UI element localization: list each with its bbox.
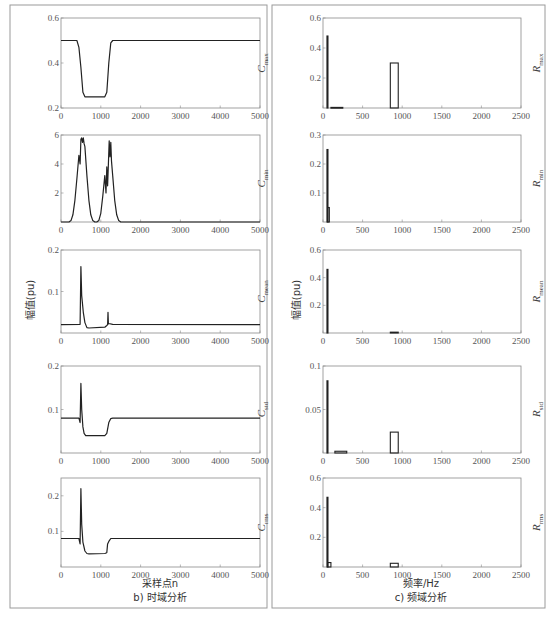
- x-tick-label: 2500: [512, 225, 531, 235]
- series-label-sub: rms: [262, 513, 270, 524]
- series-label: Rstd: [530, 402, 545, 418]
- x-tick-label: 5000: [251, 456, 270, 466]
- x-tick-label: 1000: [92, 336, 111, 346]
- x-tick-label: 2500: [512, 336, 531, 346]
- x-tick-label: 2000: [472, 570, 491, 580]
- x-tick-label: 2000: [132, 336, 151, 346]
- x-tick-label: 1000: [393, 111, 412, 121]
- y-tick-label: 4: [55, 159, 60, 169]
- axes-box: [323, 250, 521, 333]
- y-tick-label: 0.4: [310, 503, 322, 513]
- x-tick-label: 2000: [132, 225, 151, 235]
- series-label-sub: max: [537, 53, 545, 66]
- subplot-c-min: 010002000300040005000246Cmin: [55, 130, 271, 235]
- y-tick-label: 0.3: [310, 130, 322, 140]
- bar: [390, 332, 398, 333]
- x-tick-label: 2000: [472, 225, 491, 235]
- x-tick-label: 0: [321, 336, 326, 346]
- x-tick-label: 500: [356, 111, 370, 121]
- x-tick-label: 2000: [472, 456, 491, 466]
- y-tick-label: 0.2: [48, 491, 59, 501]
- x-tick-label: 5000: [251, 111, 270, 121]
- series-label: Rmean: [530, 280, 545, 303]
- y-tick-label: 2: [55, 188, 60, 198]
- x-tick-label: 500: [356, 336, 370, 346]
- bar: [390, 63, 398, 108]
- y-tick-label: 0.6: [310, 473, 322, 483]
- axes-box: [61, 135, 260, 222]
- x-tick-label: 2500: [512, 456, 531, 466]
- x-tick-label: 1000: [393, 225, 412, 235]
- subplot-c-rms: 0100020003000400050000.10.2Crms: [48, 478, 270, 580]
- x-tick-label: 500: [356, 225, 370, 235]
- x-tick-label: 0: [321, 456, 326, 466]
- y-tick-label: 0.1: [48, 526, 59, 536]
- x-tick-label: 1500: [433, 456, 452, 466]
- x-tick-label: 3000: [171, 225, 190, 235]
- subplot-r-min: 050010001500200025000.10.20.3Rmin: [310, 130, 545, 235]
- x-tick-label: 0: [321, 570, 326, 580]
- x-tick-label: 2000: [132, 111, 151, 121]
- y-tick-label: 0.4: [48, 58, 60, 68]
- series-label: Cmean: [255, 280, 270, 303]
- series-label-sub: rms: [537, 514, 545, 525]
- y-tick-label: 0.4: [310, 43, 322, 53]
- y-tick-label: 0.6: [310, 13, 322, 23]
- series-label: Rmax: [530, 53, 545, 73]
- x-tick-label: 2500: [512, 111, 531, 121]
- x-tick-label: 4000: [211, 111, 230, 121]
- y-tick-label: 0.2: [310, 300, 321, 310]
- freq-caption: c) 频域分析: [395, 591, 448, 603]
- series-label-sub: mean: [537, 280, 545, 296]
- subplot-r-std: 050010001500200025000.050.1Rstd: [305, 361, 545, 466]
- x-tick-label: 4000: [211, 570, 230, 580]
- axes-box: [61, 250, 260, 333]
- x-tick-label: 0: [59, 456, 64, 466]
- x-tick-label: 3000: [171, 111, 190, 121]
- series-line: [61, 383, 260, 435]
- x-tick-label: 2000: [132, 456, 151, 466]
- x-tick-label: 4000: [211, 336, 230, 346]
- x-tick-label: 1500: [433, 111, 452, 121]
- series-label: Cmax: [255, 53, 270, 73]
- x-tick-label: 0: [321, 111, 326, 121]
- y-tick-label: 0.2: [48, 103, 59, 113]
- series-label-sub: mean: [262, 280, 270, 296]
- x-tick-label: 500: [356, 570, 370, 580]
- time-ylabel: 幅值(pu): [24, 280, 36, 321]
- x-tick-label: 1000: [393, 456, 412, 466]
- series-line: [61, 41, 260, 97]
- y-tick-label: 0.6: [48, 13, 60, 23]
- bar: [328, 563, 331, 567]
- series-label: Cmin: [255, 169, 270, 188]
- series-label-sub: std: [537, 402, 545, 411]
- time-xlabel: 采样点n: [142, 577, 178, 589]
- x-tick-label: 2000: [472, 336, 491, 346]
- x-tick-label: 1000: [92, 570, 111, 580]
- bar: [331, 107, 343, 108]
- subplot-r-rms: 050010001500200025000.20.40.6Rrms: [310, 473, 545, 580]
- axes-box: [61, 366, 260, 453]
- bar: [327, 36, 328, 108]
- subplot-c-mean: 0100020003000400050000.10.2Cmean: [48, 245, 270, 346]
- x-tick-label: 3000: [171, 336, 190, 346]
- bar: [335, 451, 347, 453]
- bar: [327, 497, 328, 567]
- freq-xlabel: 频率/Hz: [403, 577, 439, 589]
- axes-box: [323, 366, 521, 453]
- bar: [390, 432, 398, 453]
- x-tick-label: 5000: [251, 336, 270, 346]
- y-tick-label: 0.1: [310, 188, 321, 198]
- x-tick-label: 1000: [393, 336, 412, 346]
- series-label-sub: min: [262, 169, 270, 180]
- x-tick-label: 0: [321, 225, 326, 235]
- time-domain-panel-frame: [10, 5, 267, 608]
- axes-box: [323, 18, 521, 108]
- axes-box: [323, 478, 521, 567]
- x-tick-label: 2000: [472, 111, 491, 121]
- x-tick-label: 0: [59, 111, 64, 121]
- y-tick-label: 0.1: [48, 287, 59, 297]
- x-tick-label: 1500: [433, 336, 452, 346]
- x-tick-label: 1500: [433, 225, 452, 235]
- time-caption: b) 时域分析: [133, 591, 186, 603]
